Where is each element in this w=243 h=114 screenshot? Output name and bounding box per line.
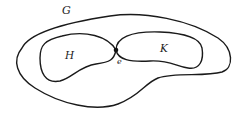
label-e: e bbox=[117, 57, 122, 66]
diagram-svg: G H K e bbox=[0, 0, 243, 114]
label-k: K bbox=[159, 42, 169, 54]
label-g: G bbox=[62, 4, 71, 17]
label-h: H bbox=[64, 49, 75, 61]
point-e-marker bbox=[114, 48, 119, 53]
set-g-boundary bbox=[17, 15, 231, 108]
set-h-boundary bbox=[40, 34, 116, 82]
diagram-canvas: G H K e bbox=[0, 0, 243, 114]
